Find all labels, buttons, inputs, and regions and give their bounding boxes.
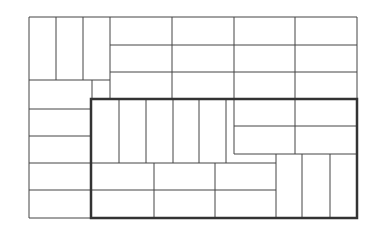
highlight-region [91, 99, 357, 218]
tiling-diagram [0, 0, 377, 232]
